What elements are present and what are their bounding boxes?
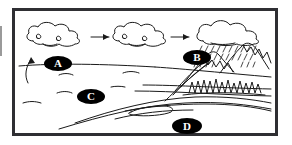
label-badge-b[interactable]: B	[183, 50, 211, 65]
arrow-evaporation-icon	[26, 57, 35, 83]
label-badge-c[interactable]: C	[77, 89, 105, 104]
cloud-right-rain-icon	[197, 21, 259, 46]
diagram-frame: A B C D	[12, 8, 278, 136]
left-edge-scan-artifact	[0, 26, 2, 56]
water-cycle-diagram-image: A B C D	[0, 0, 292, 145]
water-surface-horizon-line	[19, 64, 155, 67]
diagram-drawing-canvas	[15, 11, 275, 133]
label-badge-d[interactable]: D	[172, 118, 202, 134]
label-badge-a[interactable]: A	[44, 56, 72, 71]
arrow-right-one-icon	[91, 34, 109, 40]
cloud-left-icon	[27, 22, 80, 46]
cloud-middle-icon	[113, 22, 166, 46]
arrow-right-two-icon	[171, 34, 189, 40]
